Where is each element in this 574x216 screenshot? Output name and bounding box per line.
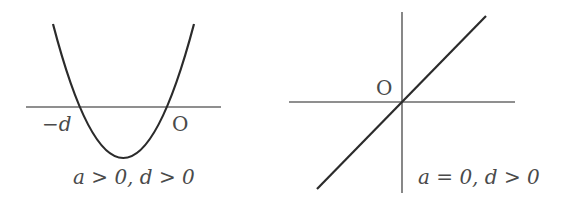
origin-label-left: O [172,112,188,136]
right-graph: O a = 0, d > 0 [289,12,540,193]
root-label: −d [42,112,72,136]
left-graph: −d O a > 0, d > 0 [26,24,221,189]
caption-left: a > 0, d > 0 [73,165,195,189]
parabola-curve [53,24,194,158]
diagram-canvas: −d O a > 0, d > 0 O a = 0, d > 0 [0,0,574,216]
origin-label-right: O [376,76,392,100]
caption-right: a = 0, d > 0 [418,165,540,189]
